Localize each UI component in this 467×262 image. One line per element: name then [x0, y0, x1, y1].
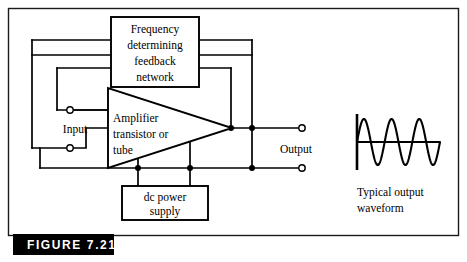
- input-terminal-upper: [67, 107, 73, 113]
- junction-dot-output-bus-lower: [249, 165, 255, 171]
- output-waveform-panel: Typical output waveform: [357, 114, 440, 214]
- input-terminal-lower: [67, 145, 73, 151]
- input-port: Input: [63, 107, 88, 151]
- waveform-caption-line-1: Typical output: [357, 186, 424, 199]
- input-label: Input: [63, 123, 88, 136]
- amplifier-line-3: tube: [113, 144, 133, 156]
- power-supply-block: dc power supply: [122, 186, 208, 220]
- waveform-caption-line-2: waveform: [357, 202, 404, 214]
- feedback-network-line-1: Frequency: [131, 23, 180, 36]
- amplifier-line-2: transistor or: [113, 128, 168, 140]
- output-terminal-upper: [299, 125, 305, 131]
- output-label: Output: [280, 143, 313, 156]
- figure-page: Frequency determining feedback network A…: [0, 0, 467, 262]
- junction-dot-psu-left: [135, 165, 141, 171]
- junction-dot-psu-right: [187, 165, 193, 171]
- output-port: Output: [280, 125, 313, 171]
- power-supply-line-1: dc power: [144, 191, 187, 204]
- feedback-network-line-4: network: [136, 71, 174, 83]
- figure-tag-label: FIGURE 7.21: [27, 238, 117, 252]
- output-terminal-lower: [299, 165, 305, 171]
- feedback-network-block: Frequency determining feedback network: [111, 17, 199, 87]
- junction-dot-output-bus: [249, 125, 255, 131]
- feedback-network-line-2: determining: [127, 39, 183, 52]
- power-supply-line-2: supply: [150, 205, 181, 218]
- feedback-network-line-3: feedback: [134, 55, 176, 67]
- figure-tag: FIGURE 7.21: [13, 234, 117, 255]
- amplifier-line-1: Amplifier: [113, 112, 159, 125]
- amplifier-block: Amplifier transistor or tube: [108, 88, 232, 168]
- oscillator-block-diagram: Frequency determining feedback network A…: [0, 0, 467, 262]
